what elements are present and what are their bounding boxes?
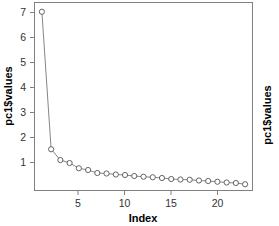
data-point [150, 175, 155, 180]
y-axis-title: pc1$values [2, 66, 14, 125]
data-point [243, 182, 248, 187]
data-point [132, 173, 137, 178]
data-point [85, 167, 90, 172]
data-point [224, 180, 229, 185]
data-point [159, 175, 164, 180]
data-point [113, 172, 118, 177]
data-point [196, 178, 201, 183]
y-tick-label-5: 5 [20, 56, 26, 68]
data-point [76, 166, 81, 171]
y-tick-label-1: 1 [20, 156, 26, 168]
data-point [141, 174, 146, 179]
data-point [67, 160, 72, 165]
x-tick-label-15: 15 [165, 197, 177, 209]
data-point [122, 172, 127, 177]
x-axis-title: Index [129, 212, 159, 224]
x-tick-label-20: 20 [212, 197, 224, 209]
x-tick-label-10: 10 [119, 197, 131, 209]
data-point [206, 178, 211, 183]
figure-background [0, 0, 279, 226]
y-tick-label-7: 7 [20, 6, 26, 18]
data-point [169, 176, 174, 181]
x-tick-label-5: 5 [75, 197, 81, 209]
y-axis-title-right: pc1$values [261, 85, 273, 144]
scree-plot-figure: 7 6 5 4 3 2 1 5 10 15 20 Index pc1$value… [0, 0, 279, 226]
data-point [178, 177, 183, 182]
data-point [215, 179, 220, 184]
data-point [104, 171, 109, 176]
y-tick-label-3: 3 [20, 106, 26, 118]
data-point [187, 177, 192, 182]
data-point [233, 180, 238, 185]
data-point [95, 170, 100, 175]
data-point [58, 157, 63, 162]
data-point [39, 9, 44, 14]
data-point [49, 147, 54, 152]
y-tick-label-2: 2 [20, 131, 26, 143]
y-tick-label-4: 4 [20, 81, 26, 93]
y-tick-label-6: 6 [20, 31, 26, 43]
